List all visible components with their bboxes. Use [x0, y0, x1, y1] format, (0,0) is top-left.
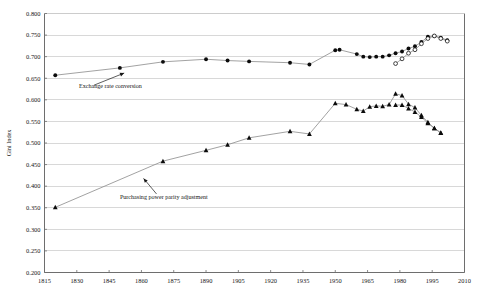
x-tick-label: 1920: [264, 277, 277, 284]
data-point-marker: [432, 34, 436, 38]
data-point-marker: [374, 55, 378, 59]
x-tick-label: 1860: [135, 277, 148, 284]
y-tick-label: 0.700: [26, 53, 40, 60]
x-tick-label: 1995: [426, 277, 439, 284]
data-point-marker: [361, 55, 365, 59]
y-tick-label: 0.550: [26, 118, 40, 125]
data-point-marker: [118, 66, 122, 70]
y-tick-label: 0.450: [26, 161, 40, 168]
y-tick-label: 0.500: [26, 139, 40, 146]
annotation-label: Purchasing power parity adjustment: [120, 194, 208, 200]
y-axis-title: Gini Index: [5, 129, 12, 157]
y-tick-label: 0.200: [26, 269, 40, 276]
data-point-marker: [53, 205, 58, 210]
data-point-marker: [439, 37, 443, 41]
y-tick-labels: 0.2000.2500.3000.3500.4000.4500.5000.550…: [26, 10, 40, 276]
data-point-marker: [400, 50, 404, 54]
data-point-marker: [247, 59, 251, 63]
data-point-marker: [387, 53, 391, 57]
data-point-marker: [354, 107, 359, 112]
gridlines: [45, 14, 465, 251]
y-tick-label: 0.800: [26, 10, 40, 17]
data-point-marker: [338, 48, 342, 52]
gini-index-line-chart: 0.2000.2500.3000.3500.4000.4500.5000.550…: [0, 0, 483, 302]
chart-figure: 0.2000.2500.3000.3500.4000.4500.5000.550…: [0, 0, 483, 302]
x-tick-label: 1935: [297, 277, 310, 284]
x-tick-labels: 1815183018451860187518901905192019351950…: [38, 277, 471, 284]
y-tick-label: 0.600: [26, 96, 40, 103]
data-point-marker: [420, 42, 424, 46]
x-tick-label: 1980: [393, 277, 406, 284]
data-point-marker: [333, 48, 337, 52]
y-tick-label: 0.650: [26, 75, 40, 82]
data-point-marker: [288, 61, 292, 65]
data-point-marker: [393, 91, 398, 96]
x-tick-label: 1815: [38, 277, 51, 284]
data-point-marker: [407, 47, 411, 51]
data-point-marker: [413, 48, 417, 52]
y-tick-label: 0.300: [26, 226, 40, 233]
data-point-marker: [355, 52, 359, 56]
data-point-marker: [394, 51, 398, 55]
x-tick-label: 1950: [329, 277, 342, 284]
y-axis-title: Gini Index: [5, 129, 12, 157]
x-tick-label: 2010: [458, 277, 471, 284]
data-point-marker: [307, 62, 311, 66]
data-point-marker: [413, 105, 418, 110]
data-point-marker: [161, 60, 165, 64]
data-point-marker: [288, 129, 293, 134]
x-tick-label: 1890: [200, 277, 213, 284]
data-point-marker: [226, 59, 230, 63]
data-point-marker: [381, 55, 385, 59]
data-point-marker: [407, 51, 411, 55]
chart-annotations: Exchange rate conversionPurchasing power…: [79, 73, 208, 200]
x-tick-label: 1965: [361, 277, 374, 284]
x-tick-label: 1845: [103, 277, 116, 284]
data-point-marker: [204, 57, 208, 61]
x-tick-label: 1905: [232, 277, 245, 284]
data-point-marker: [394, 62, 398, 66]
x-tick-label: 1830: [70, 277, 83, 284]
data-point-marker: [406, 106, 411, 111]
x-tick-label: 1875: [167, 277, 180, 284]
y-tick-label: 0.350: [26, 204, 40, 211]
data-point-marker: [53, 73, 57, 77]
annotation-label: Exchange rate conversion: [79, 83, 142, 89]
data-point-marker: [445, 39, 449, 43]
series-line-2: [55, 94, 441, 208]
data-point-marker: [333, 101, 338, 106]
data-point-marker: [387, 102, 392, 107]
y-tick-label: 0.250: [26, 247, 40, 254]
y-tick-label: 0.400: [26, 182, 40, 189]
data-point-marker: [400, 57, 404, 61]
data-point-marker: [426, 37, 430, 41]
data-point-marker: [368, 55, 372, 59]
y-tick-label: 0.750: [26, 31, 40, 38]
